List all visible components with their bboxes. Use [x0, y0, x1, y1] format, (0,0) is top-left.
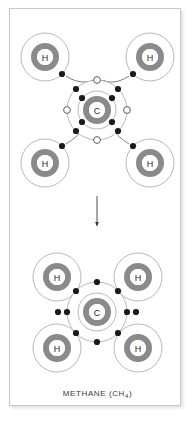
hydrogen-electron-dot	[59, 71, 65, 77]
shared-electron-dot	[94, 279, 100, 285]
caption-subscript: 4	[125, 393, 129, 399]
hydrogen-atom-top-left: H	[21, 33, 69, 81]
vacancy-left	[64, 107, 71, 114]
diagram-stage: H H H	[0, 0, 195, 421]
shared-electron-dot	[73, 288, 79, 294]
carbon-atom-unbonded: C	[64, 77, 131, 144]
hydrogen-label: H	[135, 273, 142, 283]
carbon-electron-dot	[73, 86, 79, 92]
hydrogen-electron-dot	[130, 71, 136, 77]
hydrogen-atom-bottom-left: H	[21, 139, 69, 187]
carbon-label: C	[94, 106, 101, 116]
caption-close-paren: )	[129, 389, 132, 398]
hydrogen-electron-dot	[130, 143, 136, 149]
carbon-electron-dot	[109, 95, 115, 101]
caption-text: METHANE (CH	[63, 389, 125, 398]
hydrogen-label: H	[54, 273, 61, 283]
figure-container: H H H	[0, 0, 195, 421]
carbon-electron-dot	[73, 128, 79, 134]
hydrogen-label: H	[147, 159, 154, 169]
vacancy-top	[94, 77, 101, 84]
shared-electron-dot	[55, 309, 61, 315]
hydrogen-label: H	[147, 53, 154, 63]
hydrogen-label: H	[42, 159, 49, 169]
shared-electron-dot	[73, 330, 79, 336]
carbon-electron-dot	[109, 119, 115, 125]
carbon-electron-dot	[115, 128, 121, 134]
shared-electron-dot	[133, 309, 139, 315]
hydrogen-label: H	[42, 53, 49, 63]
vacancy-bottom	[94, 137, 101, 144]
stage-before-bonding: H H H	[21, 33, 174, 187]
shared-electron-dot	[124, 309, 130, 315]
shared-electron-dot	[115, 288, 121, 294]
hydrogen-label: H	[135, 344, 142, 354]
carbon-electron-dot	[79, 119, 85, 125]
stage-after-bonding: H H H H	[33, 253, 162, 372]
carbon-electron-dot	[79, 95, 85, 101]
hydrogen-atom-bottom-right: H	[126, 139, 174, 187]
hydrogen-electron-dot	[59, 143, 65, 149]
hydrogen-label: H	[54, 344, 61, 354]
shared-electron-dot	[64, 309, 70, 315]
shared-electron-dot	[94, 339, 100, 345]
hydrogen-atom-bonded-bottom-right: H	[114, 324, 162, 372]
carbon-label: C	[94, 308, 101, 318]
shared-electron-dot	[115, 330, 121, 336]
figure-caption: METHANE (CH4)	[0, 389, 195, 398]
vacancy-right	[124, 107, 131, 114]
carbon-electron-dot	[115, 86, 121, 92]
methane-bonding-diagram: H H H	[0, 0, 195, 421]
hydrogen-atom-top-right: H	[126, 33, 174, 81]
